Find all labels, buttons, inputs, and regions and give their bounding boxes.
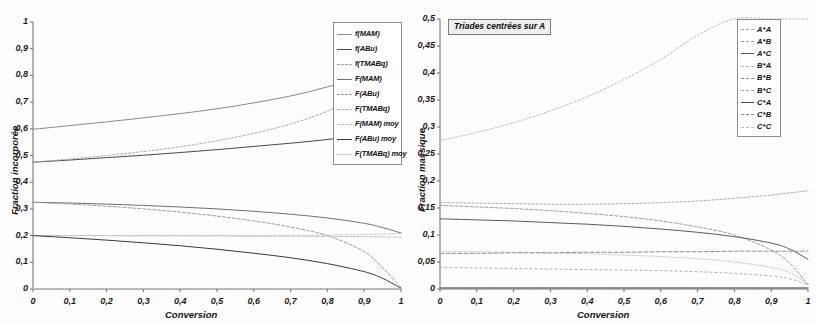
x-axis-title-right: Conversion [577,310,629,320]
series-line [33,236,401,238]
legend-item-label: F(ABu) [355,89,379,98]
legend-line-swatch-icon [741,49,754,57]
x-tick-label-right: 0,2 [500,297,528,306]
legend-item-label: C*C [757,122,771,131]
x-tick-label-right: 0,6 [647,297,675,306]
y-tick-label-left: 0,6 [0,124,28,133]
x-tick-label-right: 0,1 [463,297,491,306]
legend-item-label: F(TMABq) moy [355,149,407,158]
legend-item[interactable]: B*A [741,60,776,72]
series-line [33,202,401,287]
x-tick-label-right: 0,7 [684,297,712,306]
legend-item[interactable]: F(ABu) [337,86,397,101]
y-tick-label-right: 0,1 [407,230,435,239]
legend-left[interactable]: f(MAM)f(ABu)f(TMABq)F(MAM)F(ABu)F(TMABq)… [333,22,402,165]
x-tick-label-left: 0 [19,297,47,306]
y-tick-label-left: 1 [0,17,28,26]
x-tick-label-left: 0,8 [313,297,341,306]
series-line [440,205,808,284]
series-line [33,202,401,233]
legend-item-label: A*A [757,25,771,34]
y-tick-label-left: 0,1 [0,257,28,266]
legend-item-label: f(ABu) [355,44,377,53]
legend-item[interactable]: f(MAM) [337,26,397,41]
legend-item[interactable]: B*C [741,84,776,96]
legend-item[interactable]: A*A [741,23,776,35]
y-tick-label-right: 0,4 [407,68,435,77]
x-tick-label-left: 0,3 [129,297,157,306]
legend-item-label: F(TMABq) [355,104,390,113]
y-tick-label-left: 0,4 [0,177,28,186]
legend-line-swatch-icon [337,89,352,98]
legend-item-label: B*A [757,61,771,70]
x-tick-label-right: 0,5 [610,297,638,306]
legend-item[interactable]: F(MAM) [337,71,397,86]
series-line [33,236,401,289]
legend-line-swatch-icon [741,123,754,131]
legend-item-label: F(ABu) moy [355,134,396,143]
legend-line-swatch-icon [337,134,352,143]
legend-item[interactable]: C*C [741,121,776,133]
legend-line-swatch-icon [337,59,352,68]
legend-item-label: B*C [757,86,771,95]
legend-item[interactable]: C*A [741,96,776,108]
y-tick-label-left: 0,7 [0,97,28,106]
panel-annotation-right: Triades centrées sur A [448,19,551,35]
y-tick-label-right: 0,25 [407,149,435,158]
figure-root: Fraction incorporée Conversion f(MAM)f(A… [0,0,818,325]
chart-panel-left: Fraction incorporée Conversion f(MAM)f(A… [0,0,409,325]
x-axis-title-left: Conversion [165,310,217,320]
x-tick-label-right: 0,8 [720,297,748,306]
legend-right[interactable]: A*AA*BA*CB*AB*BB*CC*AC*BC*C [737,19,781,137]
legend-line-swatch-icon [337,74,352,83]
legend-item[interactable]: F(ABu) moy [337,131,397,146]
y-tick-label-right: 0,3 [407,122,435,131]
legend-line-swatch-icon [741,86,754,94]
legend-line-swatch-icon [337,149,352,158]
legend-line-swatch-icon [741,25,754,33]
y-tick-label-right: 0,35 [407,95,435,104]
y-tick-label-right: 0,05 [407,257,435,266]
legend-line-swatch-icon [337,119,352,128]
legend-line-swatch-icon [337,44,352,53]
y-tick-label-left: 0,3 [0,204,28,213]
x-tick-label-right: 1 [794,297,818,306]
legend-item[interactable]: A*C [741,47,776,59]
x-tick-label-right: 0,4 [573,297,601,306]
legend-item[interactable]: F(TMABq) moy [337,146,397,161]
legend-item-label: C*B [757,110,771,119]
legend-line-swatch-icon [741,62,754,70]
x-tick-label-left: 0,6 [240,297,268,306]
legend-item-label: F(MAM) [355,74,382,83]
legend-item[interactable]: B*B [741,72,776,84]
series-line [440,267,808,284]
legend-item[interactable]: f(TMABq) [337,56,397,71]
legend-item[interactable]: A*B [741,35,776,47]
legend-line-swatch-icon [337,29,352,38]
legend-item-label: f(MAM) [355,29,380,38]
series-line [440,251,808,283]
legend-line-swatch-icon [741,110,754,118]
legend-item-label: C*A [757,98,771,107]
legend-item[interactable]: f(ABu) [337,41,397,56]
legend-item[interactable]: F(TMABq) [337,101,397,116]
series-line [440,191,808,205]
legend-line-swatch-icon [337,104,352,113]
legend-item-label: F(MAM) moy [355,119,399,128]
y-axis-title-left: Fraction incorporée [10,126,20,215]
x-tick-label-left: 0,2 [93,297,121,306]
y-tick-label-right: 0,15 [407,203,435,212]
legend-line-swatch-icon [741,37,754,45]
y-tick-label-left: 0,9 [0,44,28,53]
legend-item[interactable]: F(MAM) moy [337,116,397,131]
x-tick-label-left: 0,5 [203,297,231,306]
legend-item-label: A*C [757,49,771,58]
y-tick-label-left: 0,5 [0,151,28,160]
y-tick-label-left: 0,8 [0,70,28,79]
legend-item[interactable]: C*B [741,108,776,120]
legend-item-label: B*B [757,73,771,82]
legend-line-swatch-icon [741,74,754,82]
chart-panel-right: Fraction massique Conversion Triades cen… [409,0,818,325]
legend-item-label: A*B [757,37,771,46]
y-tick-label-right: 0 [407,284,435,293]
